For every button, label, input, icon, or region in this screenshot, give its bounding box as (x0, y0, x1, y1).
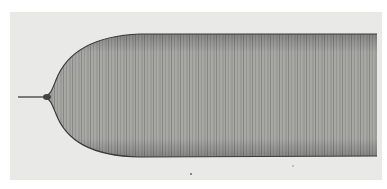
speck (292, 165, 294, 167)
flare-point (43, 94, 51, 100)
speck (190, 173, 192, 175)
streak-envelope-figure (0, 0, 387, 189)
